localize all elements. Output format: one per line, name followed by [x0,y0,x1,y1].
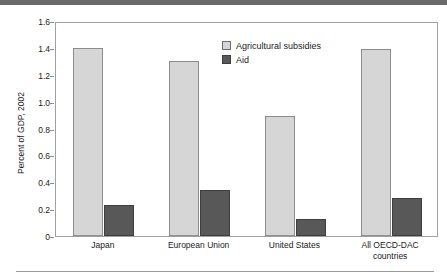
x-tick-label: European Union [151,240,247,251]
x-tick-label: United States [247,240,343,251]
y-tick-mark [50,49,54,50]
legend-label: Agricultural subsidies [236,41,321,51]
legend: Agricultural subsidiesAid [222,39,372,67]
x-tick-label-line: All OECD-DAC [342,240,438,251]
y-tick-label: 1.4 [38,45,50,54]
y-tick-mark [50,76,54,77]
y-tick-label: 0.6 [38,152,50,161]
y-tick-label: 0.2 [38,206,50,215]
y-tick-label: 0.8 [38,125,50,134]
x-tick-label-line: European Union [151,240,247,251]
figure: Percent of GDP, 2002 1.61.41.21.00.80.60… [0,0,447,280]
legend-item[interactable]: Aid [222,53,372,66]
y-tick-label: 1.2 [38,72,50,81]
y-tick-mark [50,156,54,157]
bottom-divider [16,271,434,272]
x-tick-label-line: countries [342,251,438,262]
bar[interactable] [200,190,230,236]
y-tick-mark [50,103,54,104]
x-axis-labels: JapanEuropean UnionUnited StatesAll OECD… [55,240,438,278]
bar-group [56,23,152,236]
legend-swatch-icon [222,41,231,50]
x-tick-label-line: Japan [55,240,151,251]
y-axis-ticks: 1.61.41.21.00.80.60.40.20 [16,18,54,242]
y-tick-mark [50,210,54,211]
y-tick-label: 1.0 [38,98,50,107]
x-tick-label-line: United States [247,240,343,251]
bar[interactable] [73,48,103,236]
legend-swatch-icon [222,55,231,64]
y-tick-mark [50,183,54,184]
bar[interactable] [104,205,134,236]
x-tick-label: Japan [55,240,151,251]
legend-label: Aid [236,55,249,65]
bar[interactable] [296,219,326,236]
x-tick-label: All OECD-DACcountries [342,240,438,262]
y-tick-label: 1.6 [38,18,50,27]
chart: Percent of GDP, 2002 1.61.41.21.00.80.60… [0,0,447,280]
y-tick-mark [50,237,54,238]
y-tick-mark [50,22,54,23]
bar[interactable] [169,61,199,236]
bar[interactable] [265,116,295,236]
bar[interactable] [392,198,422,236]
legend-item[interactable]: Agricultural subsidies [222,39,372,52]
y-tick-mark [50,130,54,131]
bar[interactable] [361,49,391,236]
y-tick-label: 0.4 [38,179,50,188]
